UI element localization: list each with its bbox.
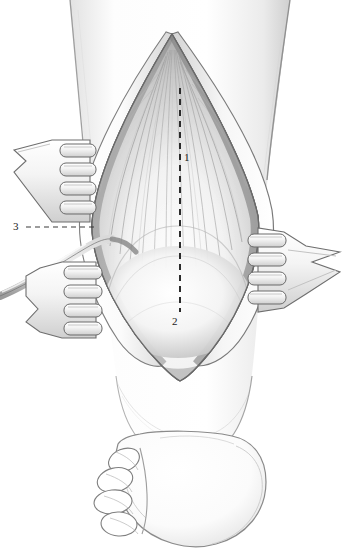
label-2: 2	[172, 316, 178, 327]
retractor-lower-left[interactable]	[26, 262, 102, 338]
label-1: 1	[184, 152, 190, 163]
heel-and-foot	[93, 431, 266, 547]
label-3: 3	[13, 221, 19, 232]
retractor-upper-left[interactable]	[14, 140, 96, 222]
retractor-right[interactable]	[248, 228, 340, 312]
anatomical-illustration	[0, 0, 342, 558]
illustration-canvas: 1 2 3	[0, 0, 342, 558]
